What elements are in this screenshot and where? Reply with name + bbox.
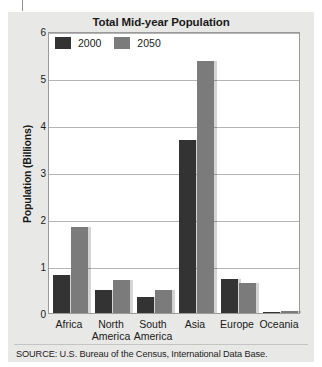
gridline xyxy=(49,174,299,175)
x-axis-label-africa: Africa xyxy=(48,318,90,330)
x-axis-label-north-america: NorthAmerica xyxy=(90,318,132,342)
y-axis-tick-label: 4 xyxy=(24,121,46,132)
y-axis-tick-label: 2 xyxy=(24,215,46,226)
source-divider xyxy=(14,344,308,345)
crop-tick-mark xyxy=(22,0,23,11)
x-axis-label-line: North xyxy=(90,318,132,330)
y-axis-tick-label: 1 xyxy=(24,262,46,273)
gridline xyxy=(49,80,299,81)
legend-label: 2000 xyxy=(78,37,101,49)
bar-africa-2000 xyxy=(53,275,70,313)
x-axis-label-line: Africa xyxy=(48,318,90,330)
gridline xyxy=(49,33,299,34)
y-axis-tick-label: 5 xyxy=(24,74,46,85)
bar-oceania-2050 xyxy=(281,311,298,313)
source-note: SOURCE: U.S. Bureau of the Census, Inter… xyxy=(16,349,267,359)
y-axis-tick-labels: 0123456 xyxy=(22,32,46,314)
figure-root: Total Mid-year Population Population (Bi… xyxy=(0,0,322,367)
dark-swatch-icon xyxy=(55,37,71,49)
bar-asia-2000 xyxy=(179,140,196,313)
gridline xyxy=(49,127,299,128)
gridline xyxy=(49,221,299,222)
chart-legend: 20002050 xyxy=(55,37,161,49)
x-axis-label-europe: Europe xyxy=(216,318,258,330)
y-axis-tick-label: 0 xyxy=(24,309,46,320)
x-axis-label-asia: Asia xyxy=(174,318,216,330)
x-axis-label-line: America xyxy=(132,330,174,342)
y-axis-tick-label: 3 xyxy=(24,168,46,179)
chart-title: Total Mid-year Population xyxy=(8,16,314,28)
x-axis-label-line: South xyxy=(132,318,174,330)
x-axis-label-line: Asia xyxy=(174,318,216,330)
y-axis-tick-label: 6 xyxy=(24,27,46,38)
bar-oceania-2000 xyxy=(263,312,280,313)
x-axis-label-oceania: Oceania xyxy=(258,318,300,330)
bar-south-america-2050 xyxy=(155,290,172,313)
legend-item-2050: 2050 xyxy=(114,37,160,49)
bar-asia-2050 xyxy=(197,61,214,313)
legend-item-2000: 2000 xyxy=(55,37,101,49)
bar-africa-2050 xyxy=(71,227,88,313)
bar-europe-2000 xyxy=(221,279,238,313)
plot-area xyxy=(48,32,300,314)
grey-swatch-icon xyxy=(114,37,130,49)
bar-europe-2050 xyxy=(239,283,256,313)
x-axis-label-line: America xyxy=(90,330,132,342)
bar-north-america-2050 xyxy=(113,280,130,313)
bar-north-america-2000 xyxy=(95,290,112,313)
x-axis-label-south-america: SouthAmerica xyxy=(132,318,174,342)
x-axis-label-line: Oceania xyxy=(258,318,300,330)
x-axis-label-line: Europe xyxy=(216,318,258,330)
legend-label: 2050 xyxy=(137,37,160,49)
bar-south-america-2000 xyxy=(137,297,154,313)
